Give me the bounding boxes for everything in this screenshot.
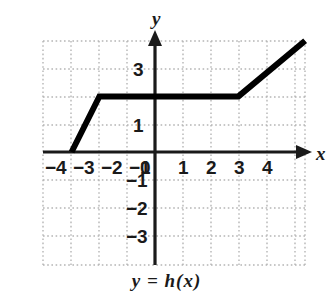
x-axis-label: x [316, 144, 326, 163]
y-tick-label-1: 1 [133, 116, 144, 135]
x-tick-label--2: −2 [101, 158, 123, 177]
x-tick-label-2: 2 [206, 158, 217, 177]
y-tick-label--2: −2 [126, 199, 148, 218]
x-tick-label-1: 1 [178, 158, 189, 177]
x-tick-label--3: −3 [73, 158, 95, 177]
y-tick-label--3: −3 [126, 227, 148, 246]
coordinate-plane [0, 0, 333, 303]
y-axis [148, 30, 162, 265]
y-tick-label-3: 3 [133, 60, 144, 79]
x-tick-label-3: 3 [234, 158, 245, 177]
y-axis-label: y [152, 9, 160, 28]
figure-caption: y = h(x) [0, 270, 333, 292]
graph-figure: −4 −3 −2 −1 0 1 2 3 4 3 1 −1 −2 −3 x y y… [0, 0, 333, 303]
x-tick-label-4: 4 [262, 158, 273, 177]
y-tick-label--1: −1 [126, 171, 148, 190]
x-tick-label--4: −4 [45, 158, 67, 177]
